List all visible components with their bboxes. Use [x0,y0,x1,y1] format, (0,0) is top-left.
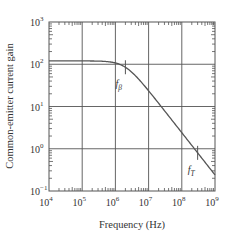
y-tick-label: 103 [30,15,44,28]
annotation-β: fβ [115,78,122,92]
y-tick-label: 10−1 [30,184,48,197]
y-tick-labels: 10310210110010−1 [30,15,48,197]
x-tick-label: 107 [139,195,153,208]
x-tick-label: 108 [172,195,186,208]
y-tick-label: 102 [30,57,44,70]
x-tick-label: 105 [72,195,86,208]
x-tick-labels: 104105106107108109 [39,195,219,208]
y-tick-label: 100 [30,142,44,155]
y-tick-label: 101 [30,100,44,113]
gain-vs-frequency-chart: fβfT 104105106107108109 10310210110010−1… [0,0,242,236]
gain-curve [49,61,215,175]
x-tick-label: 106 [106,195,120,208]
x-tick-label: 104 [39,195,53,208]
annotations: fβfT [115,60,197,178]
y-axis-title: Common-emitter current gain [4,43,15,169]
annotation-T: fT [188,164,196,178]
x-axis-title: Frequency (Hz) [99,219,166,231]
x-tick-label: 109 [205,195,219,208]
